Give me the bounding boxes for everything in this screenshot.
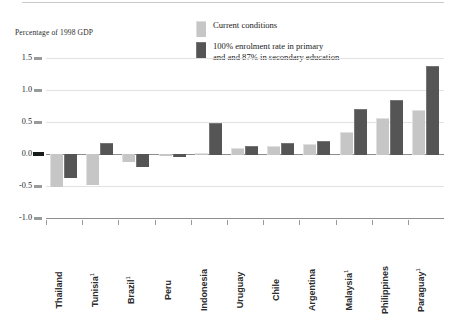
bar-groups bbox=[46, 58, 444, 218]
x-tick-mark bbox=[46, 220, 47, 225]
x-label-cell: Brazil1 bbox=[118, 220, 154, 292]
x-tick-mark bbox=[372, 220, 373, 225]
y-axis-title: Percentage of 1998 GDP bbox=[15, 28, 93, 37]
x-label-cell: Argentina bbox=[299, 220, 335, 292]
x-axis-label-thailand: Thailand bbox=[54, 271, 64, 308]
y-axis: 1.51.00.50.0-0.5-1.0 bbox=[0, 58, 46, 218]
bar-group bbox=[408, 58, 444, 218]
bar-group bbox=[227, 58, 263, 218]
bar-current bbox=[267, 146, 280, 155]
bar-group bbox=[118, 58, 154, 218]
bar-group bbox=[82, 58, 118, 218]
x-axis-labels: ThailandTunisia1Brazil1PeruIndonesiaUrug… bbox=[46, 220, 444, 292]
x-axis-label-indonesia: Indonesia bbox=[199, 269, 209, 311]
legend-label-current-conditions: Current conditions bbox=[213, 20, 277, 31]
legend-swatch-light-icon bbox=[196, 21, 206, 37]
bar-group bbox=[46, 58, 82, 218]
bar-scenario bbox=[390, 100, 403, 155]
bar-current bbox=[340, 132, 353, 155]
x-axis-line bbox=[46, 218, 444, 219]
y-tick-mark bbox=[33, 152, 44, 156]
top-divider bbox=[22, 2, 444, 3]
bar-scenario bbox=[173, 154, 186, 157]
bar-current bbox=[159, 154, 172, 156]
bar-current bbox=[231, 148, 244, 155]
bar-current bbox=[303, 144, 316, 155]
x-tick-mark bbox=[82, 220, 83, 225]
x-tick-mark bbox=[408, 220, 409, 225]
x-label-cell: Chile bbox=[263, 220, 299, 292]
x-label-cell: Paraguay1 bbox=[408, 220, 444, 292]
bar-scenario bbox=[426, 66, 439, 155]
bar-scenario bbox=[136, 154, 149, 167]
x-tick-mark bbox=[118, 220, 119, 225]
bar-group bbox=[336, 58, 372, 218]
bar-group bbox=[299, 58, 335, 218]
bar-group bbox=[263, 58, 299, 218]
x-axis-label-argentina: Argentina bbox=[307, 269, 317, 311]
y-tick-label: 0.5 bbox=[6, 117, 32, 126]
y-tick-label: -0.5 bbox=[6, 181, 32, 190]
x-axis-label-tunisia: Tunisia1 bbox=[89, 273, 100, 307]
bar-scenario bbox=[64, 154, 77, 178]
legend-item-current-conditions: Current conditions bbox=[196, 20, 436, 37]
x-axis-label-peru: Peru bbox=[163, 280, 173, 300]
bar-group bbox=[372, 58, 408, 218]
bar-current bbox=[376, 118, 389, 155]
y-tick-label: 1.0 bbox=[6, 85, 32, 94]
bar-scenario bbox=[209, 123, 222, 155]
bar-scenario bbox=[100, 143, 113, 155]
x-axis-label-malaysia: Malaysia1 bbox=[343, 270, 354, 311]
x-label-cell: Malaysia1 bbox=[336, 220, 372, 292]
y-tick-mark bbox=[34, 57, 42, 60]
y-tick-mark bbox=[34, 217, 42, 220]
y-tick-mark bbox=[34, 89, 42, 92]
x-axis-label-philippines: Philippines bbox=[380, 266, 390, 314]
y-tick-mark bbox=[34, 185, 42, 188]
x-axis-label-paraguay: Paraguay1 bbox=[415, 268, 426, 312]
bar-current bbox=[122, 154, 135, 162]
x-label-cell: Philippines bbox=[372, 220, 408, 292]
y-tick-label: 1.5 bbox=[6, 53, 32, 62]
bar-group bbox=[191, 58, 227, 218]
bar-scenario bbox=[354, 109, 367, 155]
bar-current bbox=[412, 110, 425, 155]
x-label-cell: Peru bbox=[155, 220, 191, 292]
x-axis-label-brazil: Brazil1 bbox=[125, 276, 136, 304]
x-axis-label-chile: Chile bbox=[271, 279, 281, 301]
x-tick-mark bbox=[227, 220, 228, 225]
x-tick-mark bbox=[155, 220, 156, 225]
legend-swatch-dark-icon bbox=[196, 42, 206, 58]
x-label-cell: Thailand bbox=[46, 220, 82, 292]
y-tick-label: -1.0 bbox=[6, 213, 32, 222]
bar-current bbox=[50, 154, 63, 187]
bar-scenario bbox=[245, 146, 258, 155]
bar-scenario bbox=[281, 143, 294, 155]
y-tick-mark bbox=[34, 121, 42, 124]
x-label-cell: Indonesia bbox=[191, 220, 227, 292]
x-axis-label-uruguay: Uruguay bbox=[235, 272, 245, 309]
bar-current bbox=[195, 153, 208, 155]
bar-scenario bbox=[317, 141, 330, 155]
x-tick-mark bbox=[299, 220, 300, 225]
bar-current bbox=[86, 154, 99, 185]
x-tick-mark bbox=[191, 220, 192, 225]
bar-group bbox=[155, 58, 191, 218]
x-tick-mark bbox=[336, 220, 337, 225]
x-label-cell: Uruguay bbox=[227, 220, 263, 292]
y-tick-label: 0.0 bbox=[6, 149, 32, 158]
x-tick-mark bbox=[263, 220, 264, 225]
x-label-cell: Tunisia1 bbox=[82, 220, 118, 292]
